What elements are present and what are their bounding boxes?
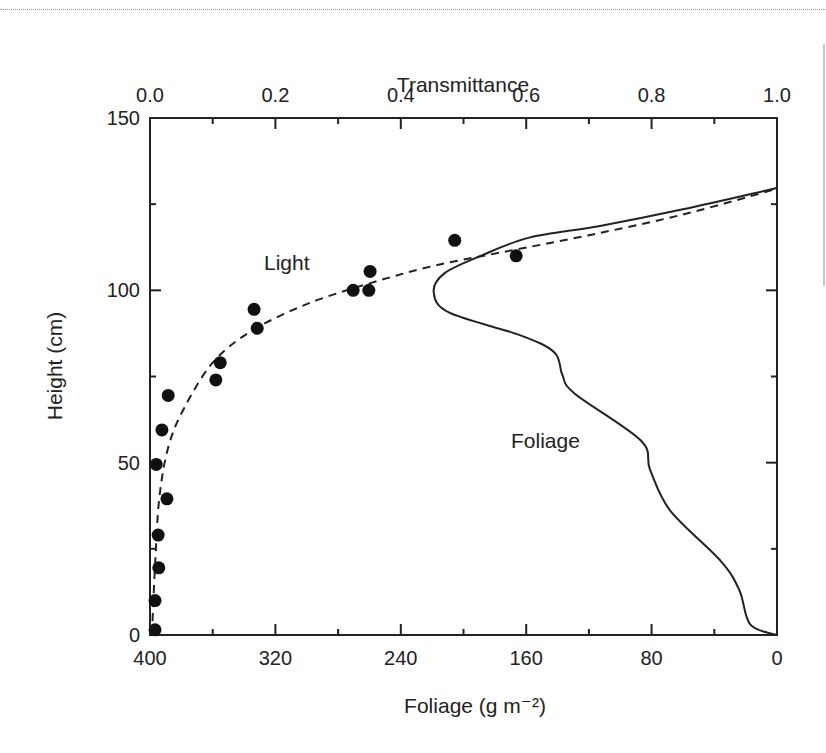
light-data-point bbox=[209, 373, 222, 386]
light-data-point bbox=[160, 492, 173, 505]
chart: Transmittance Foliage (g m⁻²) Height (cm… bbox=[0, 0, 826, 753]
top-tick-label: 1.0 bbox=[763, 84, 791, 106]
top-tick-label: 0.4 bbox=[387, 84, 415, 106]
left-tick-label: 50 bbox=[118, 452, 140, 474]
light-data-point bbox=[362, 284, 375, 297]
light-data-point bbox=[149, 594, 162, 607]
top-tick-label: 0.6 bbox=[512, 84, 540, 106]
top-tick-label: 0.2 bbox=[261, 84, 289, 106]
light-data-point bbox=[251, 322, 264, 335]
left-tick-label: 100 bbox=[107, 279, 140, 301]
bottom-tick-label: 400 bbox=[133, 647, 166, 669]
light-data-point bbox=[214, 356, 227, 369]
right-axis-ticks bbox=[766, 118, 777, 635]
top-tick-label: 0.0 bbox=[136, 84, 164, 106]
bottom-tick-label: 80 bbox=[640, 647, 662, 669]
light-data-point bbox=[152, 561, 165, 574]
light-data-point bbox=[155, 423, 168, 436]
light-data-point bbox=[152, 529, 165, 542]
left-axis-title: Height (cm) bbox=[43, 312, 66, 421]
bottom-axis-title: Foliage (g m⁻²) bbox=[404, 694, 546, 717]
light-data-point bbox=[162, 389, 175, 402]
light-data-point bbox=[149, 623, 162, 636]
annotation-light: Light bbox=[264, 251, 310, 274]
light-data-point bbox=[150, 458, 163, 471]
light-data-point bbox=[448, 234, 461, 247]
light-data-point bbox=[364, 265, 377, 278]
bottom-tick-label: 240 bbox=[384, 647, 417, 669]
annotation-foliage: Foliage bbox=[511, 429, 580, 452]
bottom-tick-label: 320 bbox=[259, 647, 292, 669]
light-data-point bbox=[510, 249, 523, 262]
plot-frame bbox=[150, 118, 777, 635]
top-axis-title: Transmittance bbox=[397, 73, 529, 96]
top-tick-label: 0.8 bbox=[638, 84, 666, 106]
light-fitted-dashed-curve bbox=[152, 189, 777, 635]
bottom-axis-ticks: 400320240160800 bbox=[133, 624, 782, 669]
bottom-tick-label: 0 bbox=[771, 647, 782, 669]
left-tick-label: 0 bbox=[129, 624, 140, 646]
left-tick-label: 150 bbox=[107, 107, 140, 129]
bottom-tick-label: 160 bbox=[510, 647, 543, 669]
light-data-point bbox=[347, 284, 360, 297]
light-data-point bbox=[248, 303, 261, 316]
